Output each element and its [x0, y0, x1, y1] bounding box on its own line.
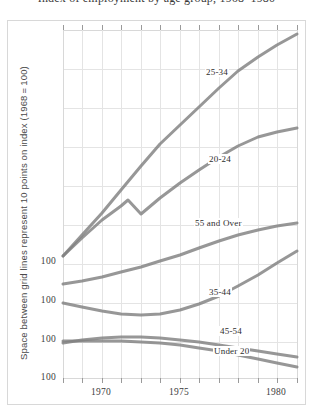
- vertical-gridlines: [64, 30, 298, 378]
- y-tick-label-1: 100: [30, 295, 56, 305]
- series-label-20-24: 20-24: [208, 154, 232, 164]
- y-tick-label-0: 100: [30, 256, 56, 266]
- series-label-55-and-over: 55 and Over: [194, 218, 243, 228]
- x-tick-label-1975: 1975: [159, 387, 199, 397]
- series-label-25-34: 25-34: [205, 67, 229, 77]
- series-label-under-20: Under 20: [213, 346, 250, 356]
- y-tick-label-2: 100: [30, 334, 56, 344]
- y-tick-label-3: 100: [30, 372, 56, 382]
- series-label-35-44: 35-44: [208, 287, 232, 297]
- series-label-45-54: 45-54: [219, 326, 243, 336]
- plot-area: [0, 0, 313, 414]
- x-tick-label-1980: 1980: [256, 387, 296, 397]
- x-tick-label-1970: 1970: [81, 387, 121, 397]
- chart-root: Index of employment by age group, 1968–1…: [0, 0, 313, 414]
